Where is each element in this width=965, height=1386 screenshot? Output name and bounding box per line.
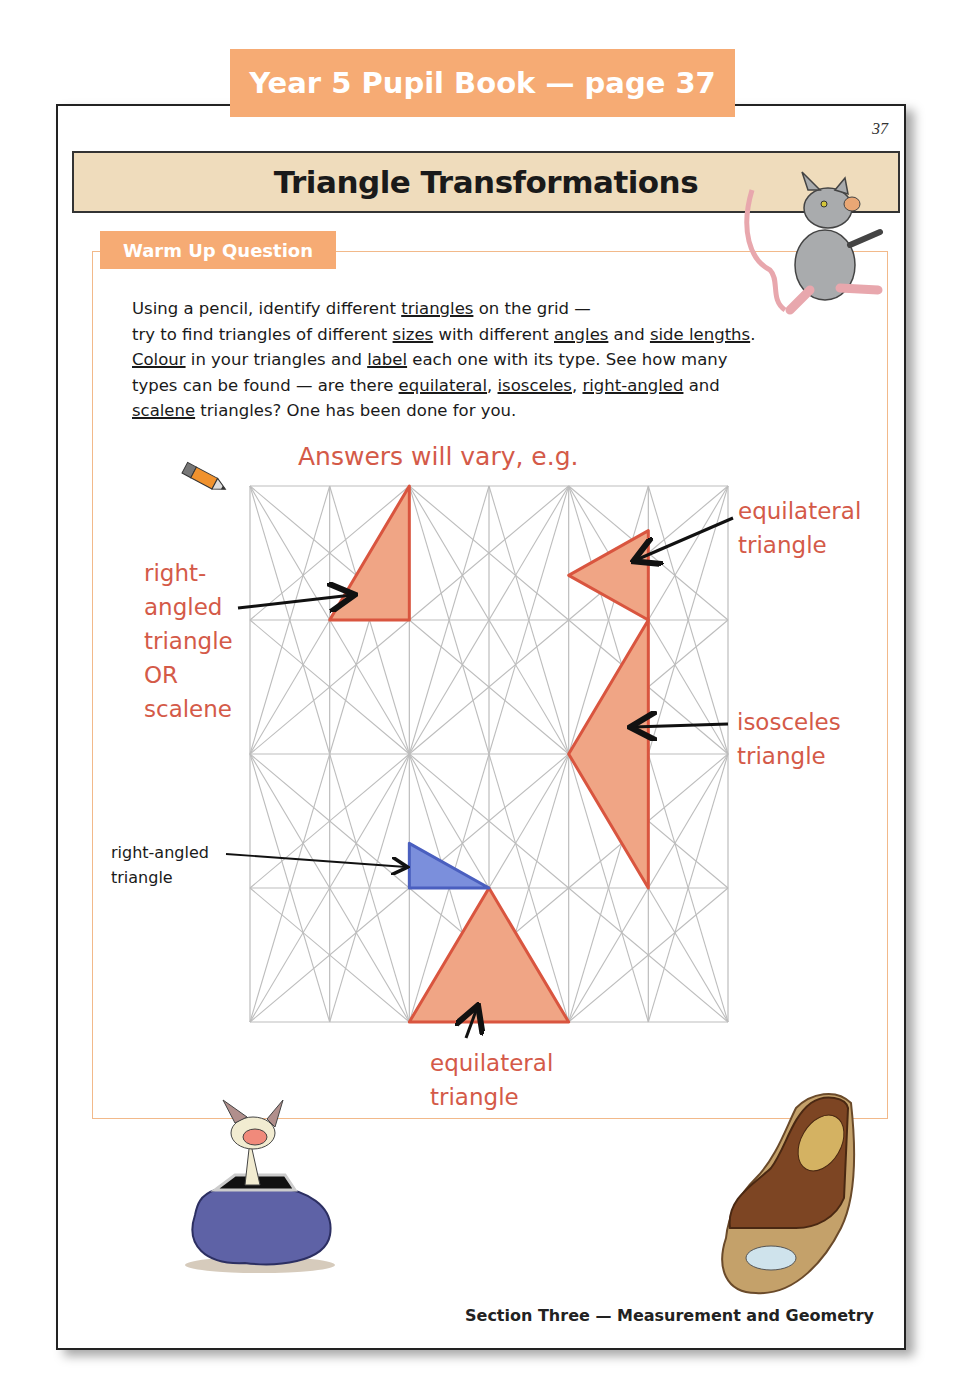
label-line: equilateral (738, 494, 861, 528)
label-line: angled (144, 590, 233, 624)
arrow-equilateral-top (636, 518, 733, 560)
label-line: triangle (738, 528, 861, 562)
mouse-in-purse-icon (175, 1095, 345, 1275)
label-line: triangle (144, 624, 233, 658)
label-line: triangle (430, 1080, 553, 1114)
label-isosceles: isoscelestriangle (737, 705, 841, 773)
label-line: scalene (144, 692, 233, 726)
label-line: isosceles (737, 705, 841, 739)
arrow-isosceles (633, 724, 728, 727)
label-line: triangle (737, 739, 841, 773)
section-footer: Section Three — Measurement and Geometry (465, 1306, 874, 1325)
label-line: right-angled (111, 840, 209, 865)
label-equilateral-top: equilateraltriangle (738, 494, 861, 562)
arrow-equilateral-bottom (466, 1008, 477, 1038)
label-line: equilateral (430, 1046, 553, 1080)
label-equilateral-bottom: equilateraltriangle (430, 1046, 553, 1114)
label-line: OR (144, 658, 233, 692)
label-example-right-angled: right-angledtriangle (111, 840, 209, 890)
mouse-in-shoe-icon (716, 1088, 866, 1298)
arrow-right-angled-red (238, 595, 352, 608)
label-right-angled-or-scalene: right-angledtriangleORscalene (144, 556, 233, 726)
label-line: triangle (111, 865, 209, 890)
book-page-banner: Year 5 Pupil Book — page 37 (230, 49, 735, 117)
label-line: right- (144, 556, 233, 590)
arrow-example (226, 854, 406, 867)
